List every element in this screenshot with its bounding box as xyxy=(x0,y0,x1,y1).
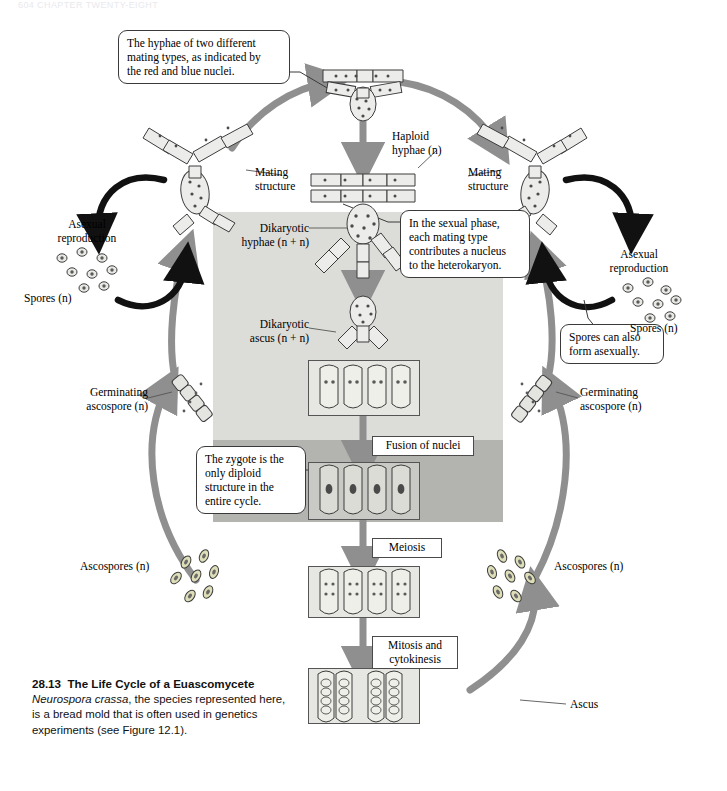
step-mitosis-cytokinesis: Mitosis and cytokinesis xyxy=(372,636,458,669)
label-germinating-ascospore-left: Germinating ascospore (n) xyxy=(44,386,148,413)
figure-caption-line3: experiments (see Figure 12.1). xyxy=(32,724,187,736)
label-ascus: Ascus xyxy=(570,698,598,712)
callout-mating-types: The hyphae of two different mating types… xyxy=(118,30,290,84)
step-meiosis: Meiosis xyxy=(372,538,442,558)
figure-caption-line2: is a bread mold that is often used in ge… xyxy=(32,708,257,720)
label-mating-structure-left: Mating structure xyxy=(255,166,295,193)
label-spores-left: Spores (n) xyxy=(24,292,72,306)
label-spores-right: Spores (n) xyxy=(630,322,678,336)
label-ascospores-left: Ascospores (n) xyxy=(80,560,149,574)
figure-title: The Life Cycle of a Euascomycete xyxy=(67,677,254,690)
step-fusion-of-nuclei: Fusion of nuclei xyxy=(372,436,474,456)
label-asexual-reproduction-left: Asexual reproduction xyxy=(34,218,140,245)
label-dikaryotic-hyphae: Dikaryotic hyphae (n + n) xyxy=(215,222,309,249)
figure-species-name: Neurospora crassa xyxy=(32,693,128,705)
callout-zygote: The zygote is the only diploid structure… xyxy=(196,446,306,514)
label-dikaryotic-ascus: Dikaryotic ascus (n + n) xyxy=(215,318,309,345)
label-germinating-ascospore-right: Germinating ascospore (n) xyxy=(580,386,690,413)
figure-number: 28.13 xyxy=(32,677,61,690)
figure-caption-title-line: 28.13 The Life Cycle of a Euascomycete xyxy=(32,676,312,692)
label-mating-structure-right: Mating structure xyxy=(468,166,508,193)
label-haploid-hyphae: Haploid hyphae (n) xyxy=(392,130,442,157)
label-asexual-reproduction-right: Asexual reproduction xyxy=(586,248,692,275)
figure-caption-body: Neurospora crassa, the species represent… xyxy=(32,692,312,739)
figure-page: 604 CHAPTER TWENTY-EIGHT xyxy=(0,0,727,791)
figure-caption: 28.13 The Life Cycle of a Euascomycete N… xyxy=(32,676,312,738)
callout-sexual-phase: In the sexual phase, each mating type co… xyxy=(400,210,530,278)
label-ascospores-right: Ascospores (n) xyxy=(554,560,623,574)
figure-caption-line1-rest: , the species represented here, xyxy=(128,693,285,705)
